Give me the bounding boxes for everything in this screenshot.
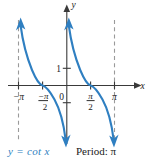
y-axis-label: y (70, 0, 76, 10)
period-caption: Period: π (76, 145, 116, 157)
xtick-label-pi-over-2-denominator: 2 (88, 102, 93, 112)
xtick-label-neg-pi-over-2-numerator: −π (38, 91, 49, 101)
ytick-label-one: 1 (56, 64, 61, 74)
xtick-label-pi-over-2-numerator: π (88, 91, 93, 101)
origin-label-zero: 0 (59, 92, 64, 102)
x-axis-label: x (139, 81, 145, 91)
xtick-label-neg-pi-over-2-denominator: 2 (43, 102, 48, 112)
xtick-label-neg-pi: −π (13, 92, 24, 102)
xtick-label-pi: π (112, 92, 117, 102)
equation-caption: y = cot x (8, 145, 50, 157)
cotangent-graph-figure: −π −π 2 0 π 2 π 1 x y (0, 0, 151, 164)
